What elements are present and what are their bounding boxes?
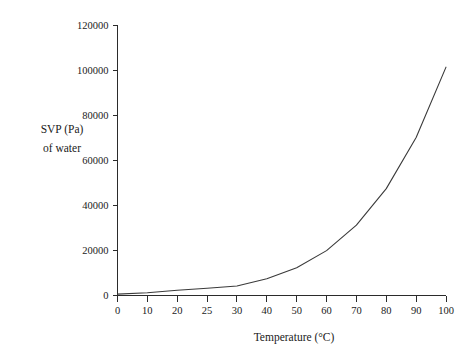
x-tick-label: 20 bbox=[172, 305, 183, 316]
x-tick-label: 10 bbox=[142, 305, 153, 316]
y-tick-label: 100000 bbox=[77, 65, 109, 76]
x-tick-label: 50 bbox=[291, 305, 302, 316]
x-tick-label: 40 bbox=[262, 305, 273, 316]
svp-temperature-chart: 020000400006000080000100000120000 010202… bbox=[0, 0, 469, 357]
x-tick-label: 70 bbox=[351, 305, 362, 316]
y-tick-label: 60000 bbox=[82, 155, 108, 166]
y-axis-title-line-2: of water bbox=[43, 142, 81, 154]
x-axis-title: Temperature (°C) bbox=[254, 331, 335, 344]
y-tick-label: 0 bbox=[103, 290, 108, 301]
chart-background bbox=[0, 0, 469, 357]
x-tick-label: 100 bbox=[438, 305, 454, 316]
x-tick-label: 25 bbox=[202, 305, 213, 316]
y-axis-title-line-1: SVP (Pa) bbox=[41, 123, 84, 136]
x-tick-label: 80 bbox=[381, 305, 392, 316]
y-tick-label: 80000 bbox=[82, 110, 108, 121]
x-tick-label: 60 bbox=[321, 305, 332, 316]
x-tick-label: 30 bbox=[232, 305, 243, 316]
x-tick-label: 90 bbox=[411, 305, 422, 316]
y-tick-label: 120000 bbox=[77, 20, 109, 31]
y-tick-label: 40000 bbox=[82, 200, 108, 211]
x-tick-label: 0 bbox=[115, 305, 120, 316]
y-tick-label: 20000 bbox=[82, 245, 108, 256]
